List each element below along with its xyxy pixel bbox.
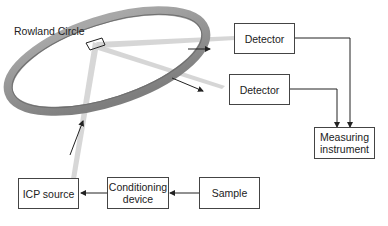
detector-box-1: Detector (234, 23, 295, 54)
detector-2-label: Detector (240, 84, 280, 96)
measuring-instrument-box: Measuring instrument (314, 127, 375, 159)
measuring-instrument-label-line1: Measuring (320, 131, 369, 143)
sample-box: Sample (199, 177, 260, 209)
sample-label: Sample (212, 187, 248, 199)
rowland-circle-label: Rowland Circle (14, 25, 85, 37)
detector-1-label: Detector (245, 33, 285, 45)
conditioning-device-box: Conditioning device (107, 177, 169, 209)
icp-source-box: ICP source (18, 178, 79, 209)
connector-lines (81, 38, 350, 193)
measuring-instrument-label-line2: instrument (320, 143, 369, 155)
detector-box-2: Detector (229, 74, 290, 105)
conditioning-device-label-line2: device (123, 193, 153, 205)
rowland-circle-ring (0, 0, 218, 132)
icp-source-label: ICP source (23, 188, 75, 200)
conditioning-device-label-line1: Conditioning (109, 181, 167, 193)
